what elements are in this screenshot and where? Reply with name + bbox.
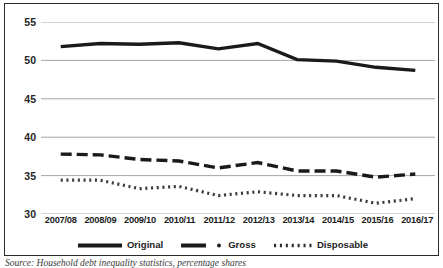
y-tick-45: 45: [24, 94, 36, 105]
plot-area: 303540455055: [41, 22, 435, 214]
x-tick-2007-08: 2007/08: [41, 215, 81, 225]
legend-item-gross[interactable]: Gross: [180, 240, 256, 250]
x-tick-2012-13: 2012/13: [239, 215, 279, 225]
series-line-gross: [61, 154, 416, 177]
gridlines: [41, 22, 435, 214]
x-tick-2013-14: 2013/14: [279, 215, 319, 225]
dotted-line-key-icon: [273, 241, 313, 250]
figure-caption: Source: Household debt inequality statis…: [5, 258, 435, 268]
x-tick-2015-16: 2015/16: [358, 215, 398, 225]
x-tick-2010-11: 2010/11: [160, 215, 200, 225]
chart-legend: Original Gross Disposable: [5, 236, 440, 254]
y-tick-30: 30: [24, 209, 36, 220]
x-tick-2011-12: 2011/12: [199, 215, 239, 225]
y-tick-50: 50: [24, 55, 36, 66]
x-tick-2008-09: 2008/09: [81, 215, 121, 225]
legend-label-gross: Gross: [228, 240, 256, 250]
chart-canvas: [41, 22, 435, 214]
legend-item-original[interactable]: Original: [77, 240, 163, 250]
series-line-original: [61, 43, 416, 71]
x-tick-2016-17: 2016/17: [397, 215, 437, 225]
y-tick-55: 55: [24, 17, 36, 28]
x-axis-tick-labels: 2007/082008/092009/102010/112011/122012/…: [41, 215, 437, 231]
y-tick-35: 35: [24, 170, 36, 181]
legend-item-disposable[interactable]: Disposable: [273, 240, 368, 250]
legend-label-disposable: Disposable: [317, 240, 368, 250]
chart-screenshot: 303540455055 2007/082008/092009/102010/1…: [0, 0, 443, 268]
y-tick-40: 40: [24, 132, 36, 143]
legend-label-original: Original: [127, 240, 163, 250]
series-line-disposable: [61, 180, 416, 203]
dashed-line-key-icon: [180, 241, 224, 250]
x-tick-2014-15: 2014/15: [318, 215, 358, 225]
x-tick-2009-10: 2009/10: [120, 215, 160, 225]
solid-line-key-icon: [77, 241, 123, 250]
series-lines: [61, 43, 416, 204]
chart-frame: 303540455055 2007/082008/092009/102010/1…: [4, 3, 439, 256]
